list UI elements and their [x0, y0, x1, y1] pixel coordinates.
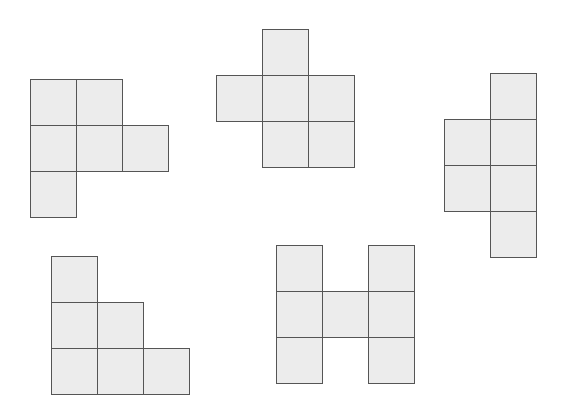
square-cell [490, 211, 537, 258]
square-cell [490, 119, 537, 166]
square-cell [322, 291, 369, 338]
square-cell [143, 348, 190, 395]
square-cell [444, 165, 491, 212]
diagram-canvas [0, 0, 567, 410]
square-cell [216, 75, 263, 122]
square-cell [51, 302, 98, 349]
square-cell [308, 75, 355, 122]
square-cell [76, 125, 123, 172]
square-cell [51, 348, 98, 395]
square-cell [276, 337, 323, 384]
square-cell [490, 165, 537, 212]
square-cell [122, 125, 169, 172]
square-cell [97, 348, 144, 395]
square-cell [262, 121, 309, 168]
square-cell [276, 245, 323, 292]
square-cell [368, 245, 415, 292]
square-cell [30, 79, 77, 126]
square-cell [308, 121, 355, 168]
square-cell [262, 29, 309, 76]
square-cell [51, 256, 98, 303]
square-cell [30, 171, 77, 218]
square-cell [444, 119, 491, 166]
square-cell [30, 125, 77, 172]
square-cell [368, 291, 415, 338]
square-cell [97, 302, 144, 349]
square-cell [262, 75, 309, 122]
square-cell [490, 73, 537, 120]
square-cell [368, 337, 415, 384]
square-cell [76, 79, 123, 126]
square-cell [276, 291, 323, 338]
